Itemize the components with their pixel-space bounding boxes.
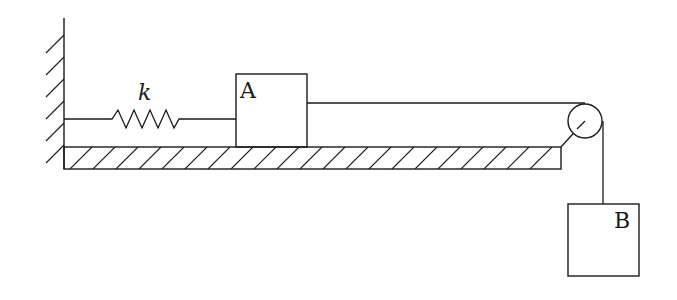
- spring-block-pulley-diagram: k A B: [0, 0, 677, 300]
- wall: [46, 18, 64, 169]
- table: [64, 147, 561, 169]
- spring: [64, 110, 236, 128]
- spring-constant-label: k: [138, 80, 151, 105]
- wall-hatching: [46, 35, 64, 163]
- block-a-label: A: [239, 78, 257, 103]
- block-b-label: B: [614, 208, 630, 233]
- table-hatching: [70, 147, 552, 169]
